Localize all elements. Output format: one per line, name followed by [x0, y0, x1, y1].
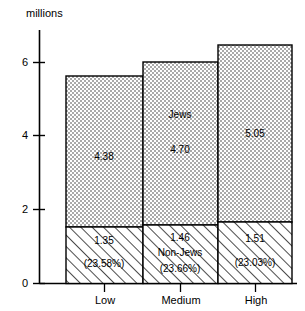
- bar-low-nonjews-percent: (23.58%): [65, 259, 143, 269]
- y-tick-label-4: 4: [12, 130, 28, 141]
- y-tick-label-0: 0: [12, 278, 28, 289]
- bar-high-nonjews-value: 1.51: [216, 234, 294, 244]
- bar-high-nonjews: [218, 222, 292, 284]
- series-label-nonjews: Non-Jews: [141, 248, 219, 258]
- bar-low-nonjews-value: 1.35: [65, 236, 143, 246]
- bar-medium-nonjews-percent: (23.66%): [141, 264, 219, 274]
- y-tick-label-6: 6: [12, 57, 28, 68]
- y-tick-label-2: 2: [12, 204, 28, 215]
- bar-medium-nonjews-value: 1.46: [141, 233, 219, 243]
- x-tick-label-medium: Medium: [141, 295, 221, 306]
- bar-low-jews-value: 4.38: [65, 152, 143, 162]
- bar-high-jews-value: 5.05: [216, 129, 294, 139]
- bar-high-nonjews-percent: (23.03%): [216, 258, 294, 268]
- stacked-bar-chart: millions 6 4 2 0 4.38 1.35 (23.58%) Jews…: [0, 0, 305, 311]
- bar-medium-jews-value: 4.70: [141, 145, 219, 155]
- x-tick-label-high: High: [216, 295, 296, 306]
- x-tick-label-low: Low: [65, 295, 145, 306]
- series-label-jews: Jews: [141, 110, 219, 120]
- y-axis-unit-label: millions: [26, 8, 63, 19]
